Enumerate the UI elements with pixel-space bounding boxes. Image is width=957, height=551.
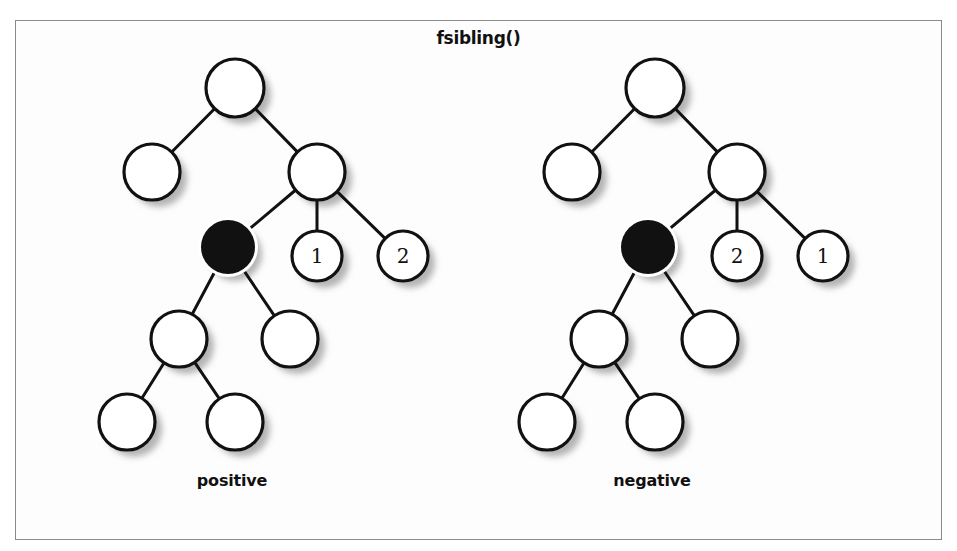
tree-node — [626, 59, 684, 117]
node-circle — [571, 311, 627, 367]
tree-node — [207, 394, 263, 450]
tree-node-numbered: 1 — [292, 231, 342, 281]
node-circle — [626, 59, 684, 117]
tree-edge — [611, 269, 636, 316]
tree-node — [289, 144, 345, 200]
tree-edge — [667, 189, 717, 231]
tree-edge — [194, 361, 221, 401]
figure-page: 1221 fsibling() positive negative — [0, 0, 957, 551]
tree-edge — [170, 107, 216, 153]
node-circle — [709, 144, 765, 200]
node-circle — [99, 394, 155, 450]
node-label: 2 — [731, 244, 744, 268]
tree-edge — [336, 190, 387, 240]
tree-node — [571, 311, 627, 367]
node-label: 1 — [817, 244, 830, 268]
node-label: 2 — [397, 244, 410, 268]
node-circle — [621, 220, 675, 274]
tree-node — [627, 394, 683, 450]
tree-edge — [674, 107, 719, 153]
tree-edge — [590, 107, 636, 153]
tree-node — [151, 311, 207, 367]
tree-node-current — [198, 217, 258, 277]
tree-node — [709, 144, 765, 200]
node-circle — [201, 220, 255, 274]
tree-node — [124, 144, 180, 200]
tree-node — [519, 394, 575, 450]
node-circle — [682, 311, 738, 367]
tree-edge — [247, 189, 297, 231]
tree-node-numbered: 2 — [378, 231, 428, 281]
tree-edge — [614, 361, 641, 401]
tree-edge — [242, 268, 275, 318]
node-layer: 1221 — [99, 59, 848, 450]
tree-node — [99, 394, 155, 450]
node-circle — [544, 144, 600, 200]
tree-caption-negative: negative — [552, 471, 752, 490]
figure-title: fsibling() — [0, 28, 957, 48]
tree-edge — [561, 361, 585, 400]
tree-node — [544, 144, 600, 200]
node-label: 1 — [311, 244, 324, 268]
tree-edge — [254, 107, 299, 153]
tree-edge — [662, 268, 695, 318]
tree-node — [206, 59, 264, 117]
node-circle — [124, 144, 180, 200]
node-circle — [289, 144, 345, 200]
tree-node — [262, 311, 318, 367]
node-circle — [519, 394, 575, 450]
tree-diagram-canvas: 1221 — [0, 0, 957, 551]
tree-node-current — [618, 217, 678, 277]
node-circle — [262, 311, 318, 367]
tree-node — [682, 311, 738, 367]
tree-caption-positive: positive — [132, 471, 332, 490]
node-circle — [206, 59, 264, 117]
tree-node-numbered: 2 — [712, 231, 762, 281]
node-circle — [151, 311, 207, 367]
tree-edge — [141, 361, 165, 400]
node-circle — [627, 394, 683, 450]
tree-edge — [191, 269, 216, 316]
node-circle — [207, 394, 263, 450]
tree-edge — [756, 190, 807, 240]
tree-node-numbered: 1 — [798, 231, 848, 281]
